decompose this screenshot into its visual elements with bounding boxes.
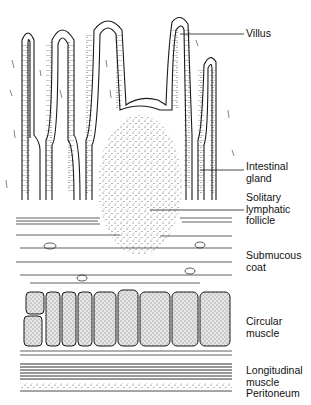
circular-muscle <box>24 290 230 346</box>
longitudinal-muscle <box>20 364 232 379</box>
label-submucous-coat: Submucous coat <box>246 250 301 273</box>
label-intestinal-gland: Intestinal gland <box>246 161 288 184</box>
label-villus: Villus <box>246 28 271 40</box>
lymphatic-follicle <box>98 115 182 255</box>
label-circular-muscle: Circular muscle <box>246 316 282 339</box>
label-solitary-lymphatic-follicle: Solitary lymphatic follicle <box>246 192 290 227</box>
label-peritoneum: Peritoneum <box>246 388 300 400</box>
peritoneum <box>20 383 232 389</box>
label-longitudinal-muscle: Longitudinal muscle <box>246 365 303 388</box>
